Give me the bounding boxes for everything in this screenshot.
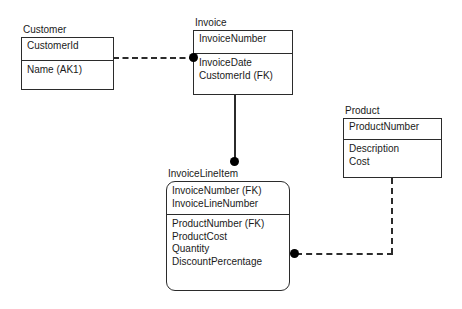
entity-product-pk-section: ProductNumber xyxy=(344,119,441,140)
entity-product-title: Product xyxy=(345,104,379,117)
entity-product-attr-field-description: Description xyxy=(349,143,436,156)
entity-product-attr-field-cost: Cost xyxy=(349,156,436,169)
entity-customer[interactable]: Customer CustomerId Name (AK1) xyxy=(21,37,114,90)
relationship-marker-customer-invoice xyxy=(189,53,198,62)
entity-invoice-title: Invoice xyxy=(195,16,227,29)
entity-invoicelineitem-title: InvoiceLineItem xyxy=(168,167,238,180)
relationship-line-customer-invoice xyxy=(113,57,195,59)
entity-invoicelineitem[interactable]: InvoiceLineItem InvoiceNumber (FK) Invoi… xyxy=(166,181,290,291)
entity-invoicelineitem-attr-section: ProductNumber (FK) ProductCost Quantity … xyxy=(167,215,289,271)
relationship-line-invoice-invoicelineitem xyxy=(234,95,236,162)
entity-customer-title: Customer xyxy=(23,23,66,36)
entity-invoicelineitem-attr-field-discount: DiscountPercentage xyxy=(172,256,284,269)
entity-invoicelineitem-pk-field-invoicenumber: InvoiceNumber (FK) xyxy=(172,185,284,198)
entity-product[interactable]: Product ProductNumber Description Cost xyxy=(343,118,442,178)
relationship-marker-invoice-invoicelineitem xyxy=(230,157,239,166)
entity-customer-pk-section: CustomerId xyxy=(22,38,113,61)
entity-invoice-pk-field: InvoiceNumber xyxy=(199,33,287,46)
entity-invoicelineitem-attr-field-productnumber: ProductNumber (FK) xyxy=(172,218,284,231)
entity-invoice-attr-field-customerid: CustomerId (FK) xyxy=(199,70,287,83)
entity-customer-pk-field: CustomerId xyxy=(27,40,108,53)
entity-invoice-attr-section: InvoiceDate CustomerId (FK) xyxy=(194,54,292,85)
entity-product-pk-field: ProductNumber xyxy=(349,121,436,134)
entity-invoicelineitem-pk-section: InvoiceNumber (FK) InvoiceLineNumber xyxy=(167,182,289,215)
entity-invoicelineitem-pk-field-linenumber: InvoiceLineNumber xyxy=(172,198,284,211)
entity-customer-attr-field: Name (AK1) xyxy=(27,64,108,77)
entity-invoice[interactable]: Invoice InvoiceNumber InvoiceDate Custom… xyxy=(193,30,293,95)
relationship-marker-product-invoicelineitem xyxy=(290,249,299,258)
relationship-line-product-horizontal xyxy=(296,253,393,255)
entity-invoice-attr-field-invoicedate: InvoiceDate xyxy=(199,57,287,70)
er-diagram-canvas: Customer CustomerId Name (AK1) Invoice I… xyxy=(0,0,462,309)
entity-invoicelineitem-attr-field-productcost: ProductCost xyxy=(172,231,284,244)
entity-invoice-pk-section: InvoiceNumber xyxy=(194,31,292,54)
entity-customer-attr-section: Name (AK1) xyxy=(22,61,113,80)
relationship-line-product-vertical xyxy=(391,178,393,254)
entity-product-attr-section: Description Cost xyxy=(344,140,441,171)
entity-invoicelineitem-attr-field-quantity: Quantity xyxy=(172,243,284,256)
